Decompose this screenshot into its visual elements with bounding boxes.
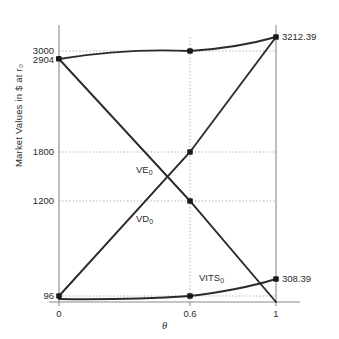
x-tick-label-0p6: 0.6 (176, 308, 204, 319)
series-label-ve0: VE0 (136, 164, 153, 175)
series-label-vd0-subscript: 0 (149, 218, 153, 225)
series-label-vd0: VD0 (136, 213, 153, 224)
y-tick-label-1800: 1800 (8, 146, 54, 157)
marker-vits0-0 (56, 293, 62, 299)
series-label-ve0-text: VE (136, 164, 149, 175)
data-point-markers (56, 34, 279, 299)
x-tick-marks (59, 302, 276, 306)
marker-vits0-0p6 (187, 293, 193, 299)
x-tick-label-0: 0 (45, 308, 73, 319)
series-label-ve0-subscript: 0 (149, 169, 153, 176)
series-label-vits0-text: VITS (199, 272, 220, 283)
y-tick-label-96: 96 (8, 290, 54, 301)
series-label-vd0-text: VD (136, 213, 149, 224)
series-label-vits0: VITS0 (199, 272, 224, 283)
series-label-vits0-subscript: 0 (220, 277, 224, 284)
annotation-bottom-right-value: 308.39 (282, 273, 311, 284)
series-line-ve0 (59, 37, 276, 59)
annotation-top-right-value: 3212.39 (282, 31, 316, 42)
gridlines (59, 37, 276, 302)
marker-ve0-0p6 (187, 48, 193, 54)
series-line-ascending (59, 37, 276, 296)
chart-container: Market Values in $ at r₀ θ 3000 2904 180… (0, 0, 339, 339)
x-axis-title: θ (162, 320, 167, 331)
y-tick-label-1200: 1200 (8, 195, 54, 206)
x-tick-label-1: 1 (262, 308, 290, 319)
marker-vd0-0p6 (187, 198, 193, 204)
series-line-vd0 (59, 59, 276, 302)
marker-ascending-0p6 (187, 149, 193, 155)
y-axis-title: Market Values in $ at r₀ (13, 46, 24, 186)
y-tick-label-2904: 2904 (8, 54, 54, 65)
marker-vits0-1 (273, 276, 279, 282)
x-axis-title-text: θ (162, 320, 167, 331)
marker-ve0-0 (56, 56, 62, 62)
axes (49, 25, 300, 302)
marker-ve0-1 (273, 34, 279, 40)
